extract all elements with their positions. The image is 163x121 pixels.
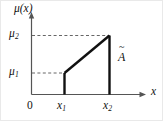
origin-label-text: 0 [27, 99, 33, 111]
x-tick-label-x1: x1 [57, 100, 66, 113]
mu2-symbol: μ [9, 27, 15, 39]
region-label-a-tilde: ~A [118, 45, 125, 63]
membership-function-plot [1, 1, 163, 121]
x-axis-label: x [151, 86, 156, 98]
y-tick-label-mu1: μ1 [9, 66, 19, 79]
origin-label: 0 [27, 100, 33, 112]
x-tick-label-x2: x2 [103, 100, 112, 113]
x-axis-arrowhead-icon [140, 92, 147, 97]
x-axis-label-text: x [151, 85, 156, 97]
sloped-membership-segment [65, 36, 110, 74]
y-tick-label-mu2: μ2 [9, 28, 19, 41]
y-axis-label-text: μ(x) [14, 2, 33, 14]
x-axis-group [32, 92, 147, 97]
membership-boundary-group [65, 36, 110, 95]
x1-subscript: 1 [62, 104, 66, 113]
mu1-symbol: μ [9, 65, 15, 77]
y-axis-group [29, 12, 34, 95]
mu1-subscript: 1 [15, 70, 19, 79]
figure-container: μ(x) μ2 μ1 0 x1 x2 x ~A [0, 0, 163, 121]
y-axis-label: μ(x) [14, 3, 33, 15]
mu2-subscript: 2 [15, 32, 19, 41]
region-label-letter: A [118, 50, 125, 64]
x2-subscript: 2 [108, 104, 112, 113]
